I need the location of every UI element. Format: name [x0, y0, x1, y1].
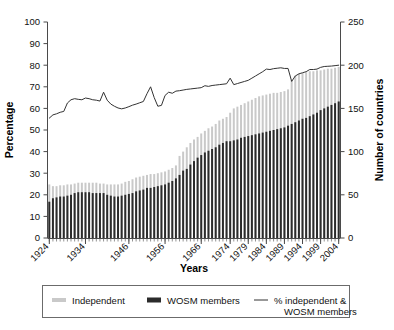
- bar-wosm-members: [218, 145, 220, 238]
- bar-wosm-members: [207, 151, 209, 238]
- bar-wosm-members: [287, 126, 289, 238]
- bar-wosm-members: [74, 193, 76, 238]
- chart-svg: 0102030405060708090100 050100150200250 1…: [0, 0, 394, 330]
- right-axis-tick-label: 50: [348, 189, 359, 200]
- bar-wosm-members: [276, 129, 278, 238]
- bar-wosm-members: [77, 192, 79, 238]
- bar-wosm-members: [189, 165, 191, 238]
- bar-wosm-members: [262, 133, 264, 238]
- y2-axis-title: Number of countries: [373, 79, 385, 182]
- bar-wosm-members: [283, 127, 285, 238]
- bar-wosm-members: [142, 190, 144, 238]
- bar-wosm-members: [233, 140, 235, 238]
- bar-wosm-members: [81, 192, 83, 238]
- left-axis-tick-label: 10: [29, 211, 40, 222]
- bar-wosm-members: [103, 193, 105, 238]
- bar-wosm-members: [63, 197, 65, 238]
- bar-wosm-members: [113, 197, 115, 238]
- bar-wosm-members: [197, 158, 199, 238]
- bar-wosm-members: [139, 190, 141, 238]
- bar-wosm-members: [56, 197, 58, 238]
- legend-label-wosm-members: WOSM members: [167, 295, 240, 306]
- bar-wosm-members: [258, 133, 260, 238]
- chart-container: 0102030405060708090100 050100150200250 1…: [0, 0, 394, 330]
- bar-wosm-members: [222, 143, 224, 238]
- bar-wosm-members: [247, 136, 249, 238]
- left-axis-tick-label: 90: [29, 38, 40, 49]
- bar-wosm-members: [95, 193, 97, 238]
- bar-wosm-members: [255, 134, 257, 238]
- bar-wosm-members: [244, 137, 246, 238]
- right-axis-tick-label: 0: [348, 232, 353, 243]
- left-axis-tick-label: 20: [29, 189, 40, 200]
- bar-wosm-members: [334, 103, 336, 238]
- bar-wosm-members: [48, 202, 50, 238]
- bar-wosm-members: [215, 147, 217, 238]
- bar-wosm-members: [128, 194, 130, 238]
- bar-wosm-members: [211, 149, 213, 238]
- legend-swatch-wosm-members: [147, 298, 161, 303]
- bar-wosm-members: [280, 128, 282, 238]
- bar-wosm-members: [305, 118, 307, 238]
- bar-wosm-members: [229, 141, 231, 238]
- bar-wosm-members: [327, 107, 329, 238]
- bar-wosm-members: [226, 141, 228, 238]
- bar-wosm-members: [186, 169, 188, 238]
- bar-wosm-members: [265, 132, 267, 238]
- bar-wosm-members: [84, 192, 86, 238]
- legend-label-independent: Independent: [72, 295, 125, 306]
- bar-wosm-members: [200, 155, 202, 238]
- bar-wosm-members: [309, 116, 311, 238]
- y-axis-title: Percentage: [3, 102, 15, 159]
- bar-wosm-members: [320, 110, 322, 238]
- left-axis-tick-label: 50: [29, 124, 40, 135]
- bar-wosm-members: [291, 124, 293, 238]
- bar-wosm-members: [168, 183, 170, 238]
- bar-wosm-members: [52, 198, 54, 238]
- bar-wosm-members: [338, 101, 340, 238]
- bar-wosm-members: [88, 192, 90, 238]
- bar-wosm-members: [175, 178, 177, 238]
- left-axis-tick-label: 70: [29, 81, 40, 92]
- bar-wosm-members: [150, 188, 152, 238]
- right-axis-tick-label: 250: [348, 16, 364, 27]
- left-axis-tick-label: 80: [29, 60, 40, 71]
- bar-wosm-members: [171, 181, 173, 238]
- bar-wosm-members: [132, 193, 134, 238]
- bar-wosm-members: [106, 195, 108, 238]
- left-axis-tick-label: 100: [24, 16, 40, 27]
- bar-wosm-members: [312, 114, 314, 238]
- bar-wosm-members: [193, 161, 195, 238]
- bar-wosm-members: [146, 188, 148, 238]
- bar-wosm-members: [236, 140, 238, 239]
- bar-wosm-members: [182, 171, 184, 238]
- bar-wosm-members: [110, 196, 112, 238]
- bar-wosm-members: [269, 131, 271, 238]
- bar-wosm-members: [273, 130, 275, 238]
- left-axis-tick-label: 0: [35, 232, 40, 243]
- legend-label-percentage-line-2: WOSM members: [284, 306, 357, 317]
- bar-wosm-members: [160, 185, 162, 238]
- bar-wosm-members: [330, 105, 332, 238]
- left-axis-tick-label: 30: [29, 168, 40, 179]
- bar-wosm-members: [251, 135, 253, 238]
- bar-wosm-members: [204, 152, 206, 238]
- right-axis-tick-label: 150: [348, 103, 364, 114]
- left-axis-tick-label: 40: [29, 146, 40, 157]
- bar-wosm-members: [66, 196, 68, 238]
- bar-wosm-members: [294, 122, 296, 238]
- right-axis-tick-label: 200: [348, 60, 364, 71]
- bar-wosm-members: [153, 187, 155, 238]
- bar-wosm-members: [316, 113, 318, 238]
- legend-swatch-independent: [52, 298, 66, 302]
- bar-wosm-members: [240, 138, 242, 238]
- bar-wosm-members: [99, 193, 101, 238]
- bar-wosm-members: [164, 184, 166, 238]
- bar-wosm-members: [179, 175, 181, 238]
- bar-wosm-members: [135, 191, 137, 238]
- bar-wosm-members: [298, 121, 300, 239]
- right-axis-tick-label: 100: [348, 146, 364, 157]
- bar-wosm-members: [124, 195, 126, 238]
- bar-wosm-members: [302, 119, 304, 238]
- bar-wosm-members: [59, 197, 61, 238]
